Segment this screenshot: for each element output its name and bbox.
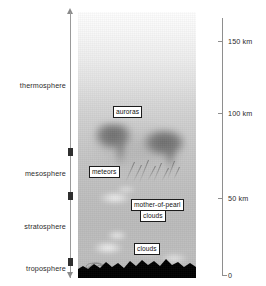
km-tick-100 <box>218 113 223 114</box>
km-axis-line <box>222 18 223 276</box>
layer-label-troposphere: troposphere <box>4 264 66 273</box>
layer-label-mesosphere: mesosphere <box>4 169 66 178</box>
mountain-silhouette <box>78 252 196 278</box>
layer-boundary-tick-tropopause <box>68 258 73 266</box>
layer-boundary-tick-stratopause <box>68 192 73 200</box>
scene-label-meteors: meteors <box>89 166 120 178</box>
km-label-50: 50 km <box>228 194 248 203</box>
km-label-0: 0 <box>228 271 232 280</box>
scene-label-auroras: auroras <box>113 106 142 118</box>
atmosphere-illustration <box>78 12 196 278</box>
mother-of-pearl-cloud-glow-secondary <box>112 184 140 195</box>
scene-label-mother-of-pearl-clouds: clouds <box>140 210 166 222</box>
km-label-150: 150 km <box>228 37 252 46</box>
scene-label-clouds: clouds <box>134 243 160 255</box>
layer-boundary-tick-mesopause <box>68 148 73 156</box>
layer-axis-line <box>70 12 71 278</box>
layer-label-stratosphere: stratosphere <box>4 222 66 231</box>
axis-arrow-down-icon <box>67 272 73 278</box>
layer-label-thermosphere: thermosphere <box>4 81 66 90</box>
km-tick-150 <box>218 41 223 42</box>
km-label-100: 100 km <box>228 109 252 118</box>
atmosphere-diagram: thermosphere mesosphere stratosphere tro… <box>0 0 266 286</box>
km-tick-50 <box>218 198 223 199</box>
km-axis-foot <box>222 275 227 276</box>
